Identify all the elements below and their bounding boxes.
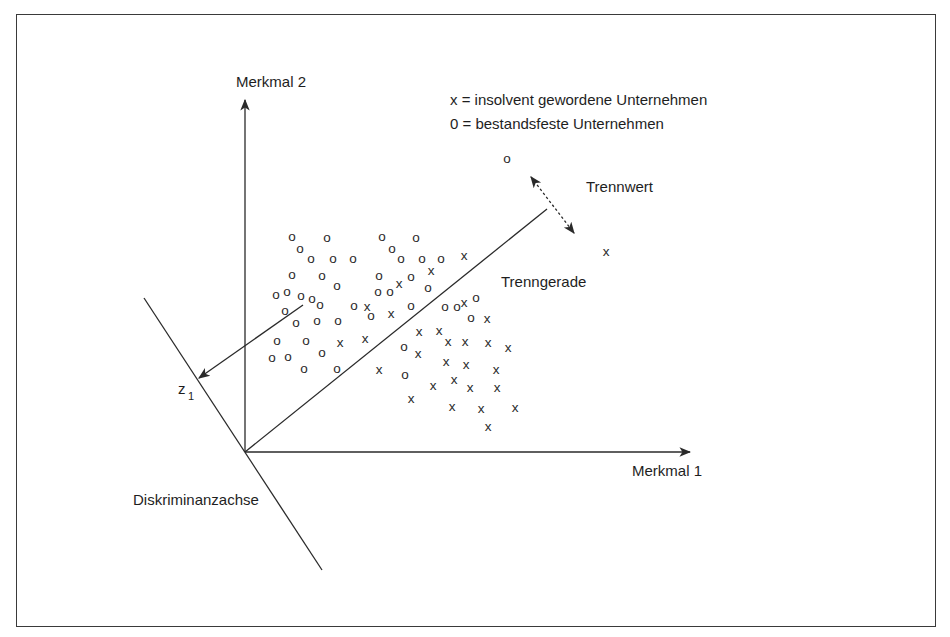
solvent-point: o xyxy=(401,367,409,382)
solvent-point: o xyxy=(388,241,396,256)
solvent-point: o xyxy=(407,269,415,284)
solvent-point: o xyxy=(318,268,326,283)
insolvent-point: x xyxy=(376,362,383,377)
solvent-point: o xyxy=(378,229,386,244)
solvent-point: o xyxy=(308,291,316,306)
svg-text:1: 1 xyxy=(188,390,194,402)
solvent-point: o xyxy=(418,251,426,266)
insolvent-point: x xyxy=(493,362,500,377)
solvent-point: o xyxy=(503,151,511,166)
insolvent-point: x xyxy=(436,323,443,338)
solvent-point: o xyxy=(333,278,341,293)
solvent-point: o xyxy=(333,361,341,376)
insolvent-point: x xyxy=(603,244,610,259)
discriminant-axis xyxy=(144,298,322,570)
legend-solvent: 0 = bestandsfeste Unternehmen xyxy=(450,115,664,132)
insolvent-point: x xyxy=(478,401,485,416)
insolvent-point: x xyxy=(485,419,492,434)
solvent-point: o xyxy=(407,298,415,313)
legend-insolvent: x = insolvent gewordene Unternehmen xyxy=(450,91,707,108)
insolvent-point: x xyxy=(463,357,470,372)
insolvent-point: x xyxy=(461,248,468,263)
insolvent-point: x xyxy=(415,346,422,361)
solvent-point: o xyxy=(288,267,296,282)
insolvent-point: x xyxy=(362,331,369,346)
insolvent-point: x xyxy=(462,334,469,349)
solvent-point: o xyxy=(307,251,315,266)
insolvent-point: x xyxy=(449,399,456,414)
solvent-point: o xyxy=(453,299,461,314)
insolvent-point: x xyxy=(445,334,452,349)
solvent-point: o xyxy=(316,297,324,312)
insolvent-point: x xyxy=(494,380,501,395)
solvent-point: o xyxy=(467,310,475,325)
solvent-point: o xyxy=(296,241,304,256)
solvent-point: o xyxy=(318,345,326,360)
solvent-point: o xyxy=(424,280,432,295)
insolvent-point: x xyxy=(461,295,468,310)
solvent-point: o xyxy=(302,333,310,348)
solvent-point: o xyxy=(334,313,342,328)
solvent-point: o xyxy=(350,298,358,313)
separating-line-label: Trenngerade xyxy=(501,273,586,290)
solvent-point: o xyxy=(281,303,289,318)
solvent-point: o xyxy=(472,290,480,305)
solvent-point: o xyxy=(374,284,382,299)
insolvent-point: x xyxy=(505,340,512,355)
solvent-point: o xyxy=(375,268,383,283)
solvent-point: o xyxy=(329,251,337,266)
cutoff-double-arrow xyxy=(531,177,574,233)
solvent-point: o xyxy=(284,349,292,364)
x-axis-label: Merkmal 1 xyxy=(632,462,702,479)
cutoff-label: Trennwert xyxy=(586,178,654,195)
solvent-point: o xyxy=(288,229,296,244)
insolvent-point: x xyxy=(451,372,458,387)
solvent-point: o xyxy=(367,308,375,323)
solvent-point: o xyxy=(292,315,300,330)
insolvent-point: x xyxy=(428,263,435,278)
discriminant-axis-label: Diskriminanzachse xyxy=(133,491,259,508)
insolvent-point: x xyxy=(484,311,491,326)
insolvent-point: x xyxy=(396,276,403,291)
solvent-point: o xyxy=(272,287,280,302)
solvent-point: o xyxy=(397,251,405,266)
insolvent-point: x xyxy=(388,306,395,321)
discriminant-analysis-diagram: Merkmal 2 Merkmal 1 Diskriminanzachse x … xyxy=(0,0,950,637)
insolvent-point: x xyxy=(467,380,474,395)
solvent-point: o xyxy=(349,251,357,266)
solvent-point: o xyxy=(441,299,449,314)
solvent-point: o xyxy=(386,284,394,299)
separating-line xyxy=(245,209,547,452)
insolvent-point: x xyxy=(337,335,344,350)
insolvent-point: x xyxy=(408,391,415,406)
solvent-point: o xyxy=(300,361,308,376)
y-axis-label: Merkmal 2 xyxy=(236,73,306,90)
insolvent-point: x xyxy=(512,400,519,415)
solvent-point: o xyxy=(273,333,281,348)
solvent-point: o xyxy=(323,230,331,245)
solvent-point: o xyxy=(283,284,291,299)
solvent-point: o xyxy=(437,251,445,266)
solvent-point: o xyxy=(297,288,305,303)
projection-label: z 1 xyxy=(178,380,194,402)
solvent-point: o xyxy=(412,230,420,245)
svg-text:z: z xyxy=(178,380,186,397)
insolvent-point: x xyxy=(443,354,450,369)
solvent-point: o xyxy=(268,350,276,365)
insolvent-point: x xyxy=(430,378,437,393)
solvent-point: o xyxy=(313,313,321,328)
solvent-point: o xyxy=(400,339,408,354)
insolvent-point: x xyxy=(416,324,423,339)
insolvent-point: x xyxy=(485,335,492,350)
